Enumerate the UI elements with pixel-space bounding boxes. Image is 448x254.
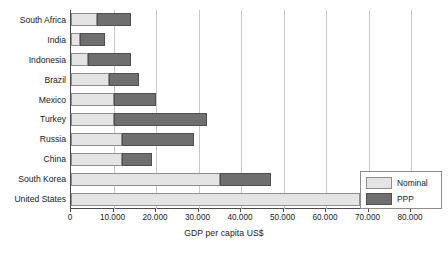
bar-segment-nominal (71, 13, 97, 26)
bar-segment-nominal (71, 193, 360, 206)
chart-legend: Nominal PPP (360, 171, 442, 209)
bar-row (71, 113, 411, 126)
x-axis-tick-label: 60.000 (312, 212, 337, 223)
y-axis-category-labels: South AfricaIndiaIndonesiaBrazilMexicoTu… (0, 10, 66, 209)
y-axis-label-united-states: United States (0, 194, 66, 204)
bar-segment-nominal (71, 73, 109, 86)
bar-row (71, 53, 411, 66)
y-axis-label-turkey: Turkey (0, 114, 66, 124)
bar-segment-nominal (71, 53, 88, 66)
x-axis-tick-label: 50.000 (270, 212, 295, 223)
bar-segment-ppp (80, 33, 106, 46)
legend-label-ppp: PPP (397, 193, 414, 205)
bar-segment-ppp (122, 133, 194, 146)
x-axis-tick-label: 40.000 (227, 212, 252, 223)
bar-segment-nominal (71, 93, 114, 106)
gdp-per-capita-stacked-bar-chart: South AfricaIndiaIndonesiaBrazilMexicoTu… (0, 0, 448, 254)
x-axis-tick-label: 70.000 (355, 212, 380, 223)
y-axis-label-indonesia: Indonesia (0, 55, 66, 65)
y-axis-label-south-africa: South Africa (0, 15, 66, 25)
bar-row (71, 13, 411, 26)
y-axis-label-russia: Russia (0, 134, 66, 144)
legend-label-nominal: Nominal (397, 177, 428, 189)
legend-swatch-nominal-icon (366, 177, 392, 189)
bar-segment-ppp (220, 173, 271, 186)
y-axis-label-mexico: Mexico (0, 95, 66, 105)
bar-row (71, 93, 411, 106)
bar-segment-ppp (97, 13, 131, 26)
bar-segment-ppp (114, 93, 157, 106)
plot-area (70, 10, 410, 209)
x-axis-tick-label: 0 (68, 212, 73, 223)
legend-swatch-ppp-icon (366, 193, 392, 205)
bar-segment-ppp (122, 153, 152, 166)
bar-segment-ppp (88, 53, 131, 66)
y-axis-label-brazil: Brazil (0, 75, 66, 85)
bar-segment-ppp (114, 113, 208, 126)
y-axis-label-china: China (0, 154, 66, 164)
bar-segment-nominal (71, 33, 80, 46)
bar-row (71, 153, 411, 166)
x-axis-title: GDP per capita US$ (0, 228, 448, 238)
y-axis-label-india: India (0, 35, 66, 45)
bar-segment-nominal (71, 113, 114, 126)
bar-row (71, 133, 411, 146)
bar-row (71, 73, 411, 86)
y-axis-label-south-korea: South Korea (0, 174, 66, 184)
bar-segment-nominal (71, 173, 220, 186)
bar-segment-ppp (109, 73, 139, 86)
x-axis-tick-label: 30.000 (185, 212, 210, 223)
bar-segment-nominal (71, 153, 122, 166)
x-axis-tick-label: 80.000 (397, 212, 422, 223)
x-axis-tick-label: 20.000 (142, 212, 167, 223)
bar-row (71, 33, 411, 46)
bar-segment-nominal (71, 133, 122, 146)
x-axis-tick-label: 10.000 (100, 212, 125, 223)
